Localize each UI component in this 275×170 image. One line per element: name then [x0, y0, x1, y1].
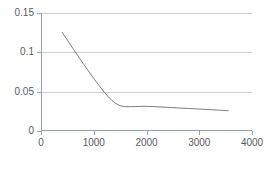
y-tick-label: 0: [28, 126, 34, 136]
x-tick-label: 0: [38, 138, 44, 148]
x-tick-label: 4000: [241, 138, 263, 148]
y-tick-label: 0.05: [15, 87, 34, 97]
x-tick-mark: [147, 131, 148, 135]
series-line-group: [41, 13, 252, 131]
x-tick-mark: [94, 131, 95, 135]
y-tick-label: 0.15: [15, 8, 34, 18]
x-tick-label: 2000: [135, 138, 157, 148]
series-line-1: [62, 32, 228, 110]
y-tick-label: 0.1: [20, 47, 34, 57]
plot-area: 00.050.10.15 01000200030004000: [41, 13, 252, 131]
x-tick-mark: [41, 131, 42, 135]
x-tick-mark: [252, 131, 253, 135]
line-chart: 00.050.10.15 01000200030004000: [0, 0, 275, 170]
x-tick-label: 1000: [83, 138, 105, 148]
x-tick-label: 3000: [188, 138, 210, 148]
x-tick-mark: [199, 131, 200, 135]
